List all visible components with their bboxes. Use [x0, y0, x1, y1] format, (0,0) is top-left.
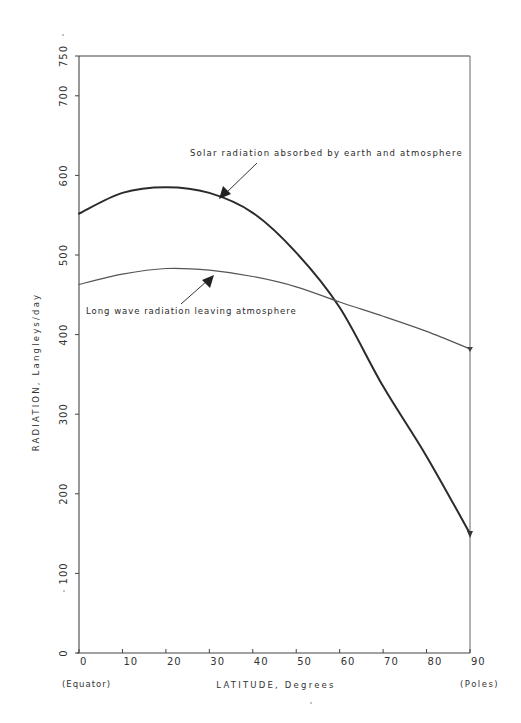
x-tick-label: 70: [384, 656, 399, 667]
x-tick-label: 0: [80, 656, 87, 667]
poles-label: (Poles): [460, 679, 499, 689]
solar-annotation-arrow: [219, 163, 257, 199]
y-tick-label: 600: [58, 164, 69, 186]
y-tick-label: 700: [58, 85, 69, 107]
y-tick-label: 200: [58, 483, 69, 505]
y-tick-label: 750: [58, 45, 69, 67]
x-tick-label: 90: [471, 656, 486, 667]
x-tick-label: 40: [254, 656, 269, 667]
x-tick-label: 20: [167, 656, 182, 667]
scan-speck: [310, 702, 312, 704]
longwave-end-marker: [467, 347, 473, 352]
x-tick-label: 60: [341, 656, 356, 667]
x-tick-label: 80: [428, 656, 443, 667]
equator-label: (Equator): [62, 679, 111, 689]
x-axis-ticks: 0102030405060708090: [79, 649, 486, 667]
y-tick-label: 500: [58, 244, 69, 266]
longwave-annotation-label: Long wave radiation leaving atmosphere: [86, 306, 297, 316]
solar-annotation-label: Solar radiation absorbed by earth and at…: [190, 148, 463, 158]
solar-end-marker: [467, 531, 473, 538]
y-tick-label: 0: [58, 649, 69, 656]
scan-speck: [62, 34, 64, 36]
scan-speck: [63, 590, 65, 592]
x-tick-label: 30: [210, 656, 225, 667]
y-axis-title: RADIATION, Langleys/day: [31, 293, 41, 452]
plot-frame: [77, 56, 470, 653]
x-tick-label: 10: [123, 656, 138, 667]
y-tick-label: 400: [58, 324, 69, 346]
longwave-annotation-arrow: [181, 275, 214, 304]
y-tick-label: 300: [58, 403, 69, 425]
radiation-chart: 0100200300400500600700750 01020304050607…: [0, 0, 521, 723]
solar-radiation-curve: [79, 187, 470, 533]
x-axis-title: LATITUDE, Degrees: [216, 680, 335, 690]
x-tick-label: 50: [297, 656, 312, 667]
y-tick-label: 100: [58, 562, 69, 584]
y-axis-ticks: 0100200300400500600700750: [58, 45, 79, 657]
